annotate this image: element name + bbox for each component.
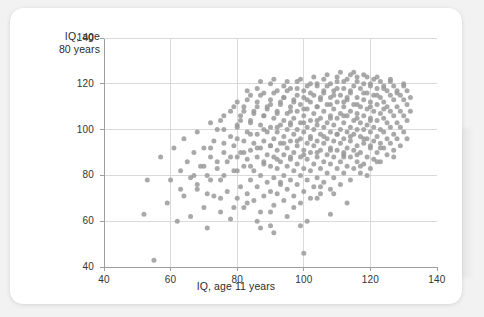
data-point bbox=[355, 159, 360, 164]
data-point bbox=[331, 155, 336, 160]
data-point bbox=[188, 214, 193, 219]
data-point bbox=[348, 155, 353, 160]
data-point bbox=[365, 74, 370, 79]
data-point bbox=[335, 79, 340, 84]
data-point bbox=[228, 155, 233, 160]
data-point bbox=[205, 191, 210, 196]
data-point bbox=[281, 118, 286, 123]
data-point bbox=[221, 127, 226, 132]
data-point bbox=[225, 189, 230, 194]
data-point bbox=[215, 166, 220, 171]
data-point bbox=[321, 125, 326, 130]
data-point bbox=[271, 203, 276, 208]
data-point bbox=[265, 104, 270, 109]
data-point bbox=[335, 116, 340, 121]
data-point bbox=[268, 143, 273, 148]
data-point bbox=[348, 177, 353, 182]
data-point bbox=[205, 226, 210, 231]
data-point bbox=[401, 97, 406, 102]
data-point bbox=[348, 125, 353, 130]
data-point bbox=[231, 205, 236, 210]
data-points-group bbox=[141, 70, 412, 263]
data-point bbox=[288, 104, 293, 109]
data-point bbox=[178, 168, 183, 173]
data-point bbox=[325, 152, 330, 157]
data-point bbox=[271, 230, 276, 235]
data-point bbox=[258, 226, 263, 231]
data-point bbox=[388, 125, 393, 130]
data-point bbox=[335, 86, 340, 91]
data-point bbox=[348, 88, 353, 93]
data-point bbox=[228, 109, 233, 114]
data-point bbox=[255, 155, 260, 160]
data-point bbox=[321, 134, 326, 139]
data-point bbox=[385, 120, 390, 125]
data-point bbox=[271, 175, 276, 180]
data-point bbox=[361, 136, 366, 141]
data-point bbox=[318, 166, 323, 171]
data-point bbox=[228, 216, 233, 221]
data-point bbox=[398, 125, 403, 130]
data-point bbox=[328, 102, 333, 107]
data-point bbox=[238, 184, 243, 189]
data-point bbox=[301, 251, 306, 256]
data-point bbox=[308, 150, 313, 155]
data-point bbox=[295, 143, 300, 148]
data-point bbox=[275, 125, 280, 130]
data-point bbox=[315, 175, 320, 180]
data-point bbox=[315, 104, 320, 109]
data-point bbox=[235, 168, 240, 173]
data-point bbox=[158, 155, 163, 160]
data-point bbox=[348, 134, 353, 139]
data-point bbox=[375, 86, 380, 91]
data-point bbox=[338, 159, 343, 164]
data-point bbox=[251, 198, 256, 203]
data-point bbox=[361, 141, 366, 146]
data-point bbox=[401, 81, 406, 86]
data-point bbox=[375, 159, 380, 164]
data-point bbox=[325, 72, 330, 77]
data-point bbox=[331, 106, 336, 111]
data-point bbox=[358, 120, 363, 125]
data-point bbox=[265, 180, 270, 185]
data-point bbox=[305, 97, 310, 102]
data-point bbox=[285, 79, 290, 84]
data-point bbox=[318, 184, 323, 189]
data-point bbox=[241, 164, 246, 169]
x-tick-label: 100 bbox=[289, 274, 319, 285]
data-point bbox=[248, 164, 253, 169]
data-point bbox=[275, 157, 280, 162]
data-point bbox=[221, 113, 226, 118]
data-point bbox=[355, 79, 360, 84]
data-point bbox=[351, 166, 356, 171]
data-point bbox=[295, 161, 300, 166]
data-point bbox=[408, 109, 413, 114]
data-point bbox=[275, 148, 280, 153]
data-point bbox=[281, 173, 286, 178]
data-point bbox=[311, 74, 316, 79]
data-point bbox=[228, 134, 233, 139]
plot-canvas bbox=[10, 8, 462, 304]
data-point bbox=[358, 86, 363, 91]
data-point bbox=[191, 173, 196, 178]
data-point bbox=[298, 173, 303, 178]
data-point bbox=[368, 143, 373, 148]
data-point bbox=[328, 212, 333, 217]
data-point bbox=[335, 148, 340, 153]
data-point bbox=[335, 132, 340, 137]
data-point bbox=[261, 90, 266, 95]
data-point bbox=[375, 93, 380, 98]
data-point bbox=[378, 145, 383, 150]
scatter-plot-figure: IQ, age 80 years IQ, age 11 years 406080… bbox=[10, 8, 462, 304]
data-point bbox=[218, 118, 223, 123]
data-point bbox=[255, 100, 260, 105]
data-point bbox=[308, 81, 313, 86]
data-point bbox=[381, 86, 386, 91]
data-point bbox=[258, 173, 263, 178]
data-point bbox=[318, 95, 323, 100]
data-point bbox=[315, 196, 320, 201]
data-point bbox=[328, 129, 333, 134]
data-point bbox=[295, 93, 300, 98]
data-point bbox=[288, 155, 293, 160]
data-point bbox=[338, 70, 343, 75]
